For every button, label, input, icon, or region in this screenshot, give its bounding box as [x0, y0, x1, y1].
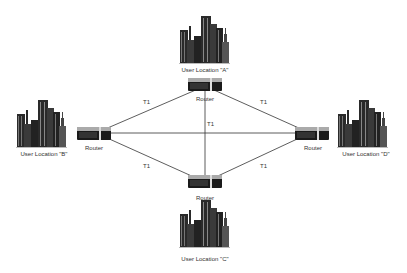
- location-label-b: User Location "B": [21, 151, 68, 157]
- network-diagram: [0, 0, 407, 273]
- building-icon-b: [16, 100, 67, 148]
- building-icon-d: [337, 100, 388, 148]
- building-icon-a: [179, 16, 230, 64]
- link-label-a-b: T1: [143, 99, 150, 105]
- router-icon-b: [77, 127, 111, 140]
- link-a-d: [205, 86, 310, 133]
- link-a-b: [96, 86, 205, 133]
- building-icon-c: [179, 200, 230, 248]
- router-icon-d: [295, 127, 329, 140]
- router-label-c: Router: [196, 195, 214, 201]
- link-label-a-c: T1: [207, 121, 214, 127]
- link-label-a-d: T1: [260, 99, 267, 105]
- link-b-c: [96, 133, 205, 182]
- link-label-b-c: T1: [143, 163, 150, 169]
- router-label-a: Router: [196, 96, 214, 102]
- link-label-c-d: T1: [260, 163, 267, 169]
- location-label-a: User Location "A": [182, 67, 229, 73]
- link-c-d: [205, 133, 310, 182]
- router-label-b: Router: [85, 145, 103, 151]
- router-label-d: Router: [304, 145, 322, 151]
- location-label-c: User Location "C": [181, 256, 228, 262]
- router-icon-a: [188, 78, 222, 91]
- router-icon-c: [188, 175, 222, 188]
- location-label-d: User Location "D": [342, 151, 389, 157]
